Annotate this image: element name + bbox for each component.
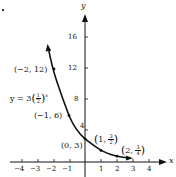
x-tick-1: 1: [99, 166, 103, 173]
exponential-graph: [0, 0, 176, 177]
point-label-neg1: (−1, 6): [34, 112, 62, 120]
x-axis-label: x: [169, 157, 174, 165]
x-tick-4: 4: [147, 166, 151, 173]
curve-start-arrow-icon: [46, 44, 52, 52]
x-tick-3: 3: [131, 166, 135, 173]
x-tick-m1: −1: [62, 166, 72, 173]
point-label-1: (1, 32): [94, 134, 118, 145]
x-tick-m3: −3: [30, 166, 40, 173]
x-tick-2: 2: [115, 166, 119, 173]
x-tick-m4: −4: [14, 166, 24, 173]
x-tick-m2: −2: [46, 166, 56, 173]
y-tick-4: 4: [80, 123, 84, 130]
curve-end-arrow-icon: [126, 156, 133, 161]
point-label-2: (2, 34): [121, 145, 145, 156]
y-tick-16: 16: [68, 34, 77, 41]
point-label-neg2: (−2, 12): [14, 66, 47, 74]
y-tick-12: 12: [68, 65, 77, 72]
x-axis-arrow-icon: [159, 159, 167, 165]
equation-label: y = 3(12)x: [10, 93, 48, 104]
y-axis-label: y: [81, 2, 86, 10]
y-axis-arrow-icon: [82, 14, 88, 22]
point-label-0: (0, 3): [61, 142, 83, 150]
y-tick-8: 8: [74, 96, 78, 103]
corner-mark: [2, 9, 4, 11]
